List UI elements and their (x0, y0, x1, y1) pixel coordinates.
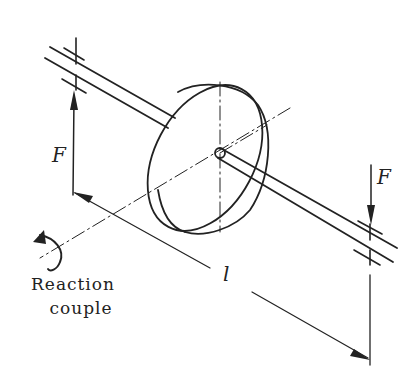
right-bearing-marks (354, 221, 382, 265)
reaction-couple-arrow (33, 230, 61, 270)
diagram-canvas (0, 0, 409, 376)
reaction-label-line2: couple (36, 300, 126, 317)
left-shaft (45, 47, 175, 128)
force-label-left: F (52, 145, 66, 165)
force-label-right: F (377, 167, 391, 187)
length-label: l (223, 264, 229, 284)
left-force-arrow (70, 90, 78, 195)
reaction-label-line1: Reaction (18, 276, 128, 293)
disk (124, 66, 286, 251)
right-force-arrow (367, 165, 375, 225)
